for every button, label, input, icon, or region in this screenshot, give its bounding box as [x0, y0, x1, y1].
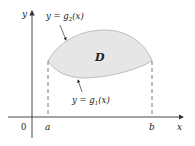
- pointer-upper: [60, 25, 66, 40]
- region-label: D: [94, 51, 105, 64]
- lower-curve-label: y = g1(x): [71, 95, 110, 106]
- upper-curve-label: y = g2(x): [45, 11, 84, 22]
- tick-label-a: a: [45, 122, 50, 132]
- pointer-lower: [78, 80, 82, 92]
- upper-curve-suffix: (x): [72, 11, 83, 21]
- lower-curve-suffix: (x): [98, 95, 109, 105]
- lower-curve-prefix: y = g: [71, 95, 95, 105]
- x-axis-label: x: [177, 122, 182, 132]
- origin-label: 0: [21, 122, 26, 132]
- upper-curve-prefix: y = g: [45, 11, 69, 21]
- y-axis-label: y: [21, 9, 28, 19]
- region-diagram: y x 0 a b D y = g2(x) y = g1(x): [0, 0, 195, 146]
- tick-label-b: b: [149, 122, 155, 132]
